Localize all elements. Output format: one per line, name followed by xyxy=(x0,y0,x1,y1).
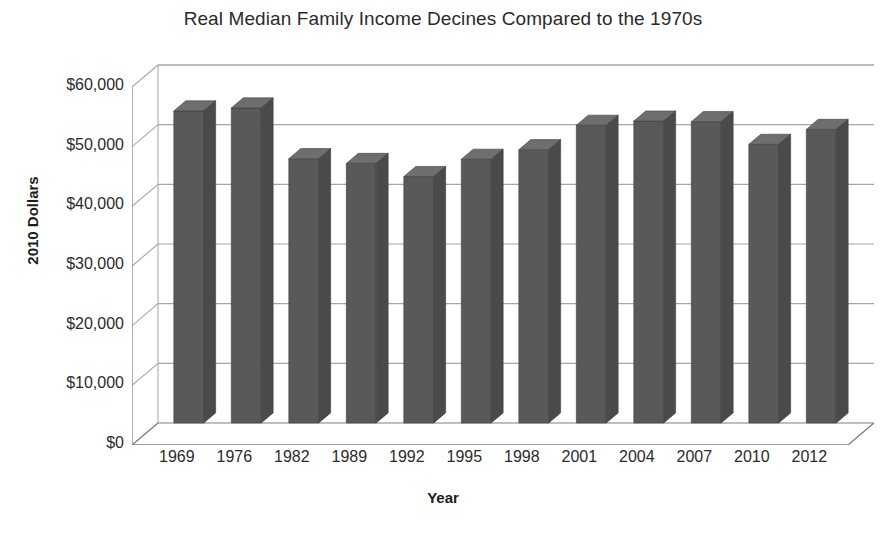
plot-svg xyxy=(132,55,874,445)
bar-front-face xyxy=(404,177,434,423)
y-axis-tick-label: $10,000 xyxy=(28,374,124,392)
x-axis-tick-label: 1976 xyxy=(204,448,264,466)
x-axis-tick-label: 1982 xyxy=(262,448,322,466)
x-axis-title: Year xyxy=(0,489,886,506)
x-axis-tick-label: 2004 xyxy=(607,448,667,466)
bar-front-face xyxy=(461,159,491,423)
x-axis-tick-label: 2012 xyxy=(779,448,839,466)
x-axis-tick-label: 1998 xyxy=(492,448,552,466)
bar-front-face xyxy=(749,144,779,423)
bar-front-face xyxy=(691,122,721,423)
x-axis-tick-label: 1989 xyxy=(319,448,379,466)
x-axis-tick-label: 2010 xyxy=(722,448,782,466)
bar-front-face xyxy=(806,129,836,423)
bar-front-face xyxy=(634,121,664,423)
bar-front-face xyxy=(346,163,376,423)
y-axis-tick-labels: $0$10,000$20,000$30,000$40,000$50,000$60… xyxy=(28,0,124,542)
bar-front-face xyxy=(289,159,319,423)
x-axis-tick-labels: 1969197619821989199219951998200120042007… xyxy=(132,448,874,474)
x-axis-tick-label: 1995 xyxy=(434,448,494,466)
bar-side-face xyxy=(204,101,216,423)
bar-side-face xyxy=(664,111,676,423)
x-axis-tick-label: 1969 xyxy=(147,448,207,466)
bar-side-face xyxy=(434,166,446,423)
y-axis-tick-label: $40,000 xyxy=(28,195,124,213)
y-axis-tick-label: $60,000 xyxy=(28,76,124,94)
bar-front-face xyxy=(576,125,606,423)
bar-front-face xyxy=(231,108,261,423)
bar-side-face xyxy=(319,149,331,423)
y-axis-tick-label: $20,000 xyxy=(28,315,124,333)
bar-front-face xyxy=(174,111,204,423)
x-axis-tick-label: 1992 xyxy=(377,448,437,466)
bar-side-face xyxy=(836,119,848,423)
x-axis-tick-label: 2007 xyxy=(664,448,724,466)
bar-side-face xyxy=(721,112,733,423)
chart-title: Real Median Family Income Decines Compar… xyxy=(0,8,886,30)
bar-side-face xyxy=(549,140,561,423)
bar-side-face xyxy=(261,98,273,423)
bar-side-face xyxy=(376,153,388,423)
bar-front-face xyxy=(519,150,549,423)
page-edge-artifact xyxy=(0,528,886,542)
x-axis-tick-label: 2001 xyxy=(549,448,609,466)
y-axis-tick-label: $50,000 xyxy=(28,136,124,154)
chart-figure: Real Median Family Income Decines Compar… xyxy=(0,0,886,542)
bar-side-face xyxy=(606,115,618,423)
y-axis-tick-label: $30,000 xyxy=(28,255,124,273)
bar-side-face xyxy=(491,149,503,423)
bar-side-face xyxy=(779,134,791,423)
y-axis-tick-label: $0 xyxy=(28,434,124,452)
plot-area xyxy=(132,55,874,445)
